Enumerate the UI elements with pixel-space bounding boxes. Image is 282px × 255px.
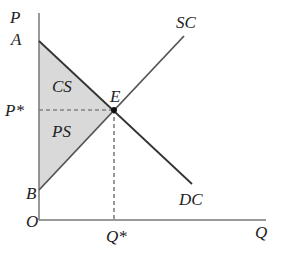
equilibrium-label: E	[109, 87, 121, 106]
origin-label: O	[26, 212, 38, 231]
surplus-diagram: P A P* B O Q* Q E CS PS SC DC	[0, 0, 282, 255]
consumer-surplus-label: CS	[52, 77, 72, 96]
surplus-shaded-region	[39, 41, 114, 190]
diagram-canvas: P A P* B O Q* Q E CS PS SC DC	[0, 0, 282, 255]
point-b-label: B	[26, 184, 37, 203]
point-a-label: A	[10, 30, 22, 49]
producer-surplus-label: PS	[51, 122, 71, 141]
quantity-star-label: Q*	[106, 227, 127, 246]
supply-curve-label: SC	[176, 13, 197, 32]
x-axis-label: Q	[255, 223, 267, 242]
demand-curve-label: DC	[178, 190, 203, 209]
price-star-label: P*	[4, 101, 24, 120]
equilibrium-point	[111, 107, 117, 113]
y-axis-label: P	[9, 8, 20, 27]
